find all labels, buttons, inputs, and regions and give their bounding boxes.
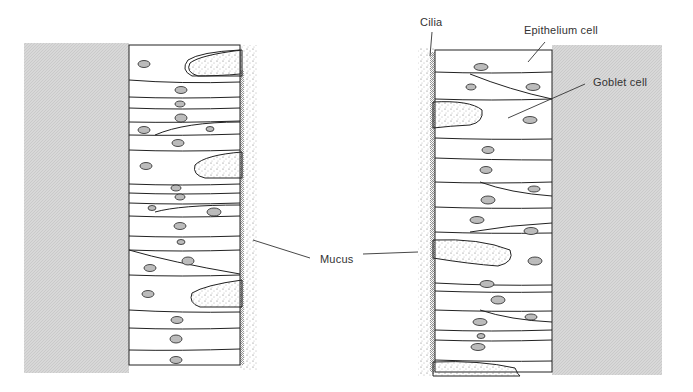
- label-cilia: Cilia: [420, 16, 442, 28]
- label-mucus: Mucus: [320, 253, 353, 265]
- right-epithelium-section: [418, 45, 662, 376]
- epithelium-diagram: [0, 0, 693, 392]
- left-cilia-layer: [240, 70, 244, 365]
- left-tissue-layer: [24, 43, 129, 373]
- mucus-leader-right: [363, 252, 418, 254]
- right-tissue-layer: [552, 45, 662, 375]
- left-epithelium-section: [24, 43, 258, 373]
- mucus-leader-left: [253, 240, 310, 258]
- right-cilia-layer: [430, 52, 435, 372]
- label-goblet-cell: Goblet cell: [593, 76, 647, 88]
- label-epithelium-cell: Epithelium cell: [524, 24, 598, 36]
